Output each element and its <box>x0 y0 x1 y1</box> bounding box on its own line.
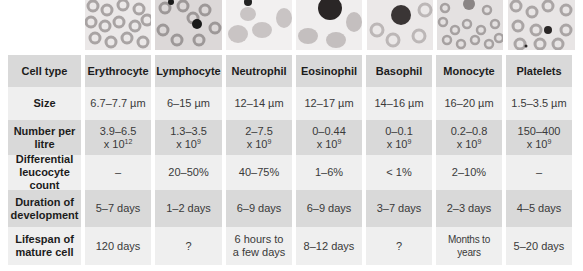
lifespan-neutrophil: 6 hours to a few days <box>226 227 292 265</box>
number-range: 0–0.44 <box>312 125 346 138</box>
number-multiplier: x 109 <box>387 138 412 151</box>
platelets-micrograph <box>508 0 575 50</box>
duration-platelets: 4–5 days <box>506 190 572 227</box>
number-lymphocyte: 1.3–3.5x 109 <box>155 120 222 155</box>
duration-basophil: 3–7 days <box>366 190 432 227</box>
number-range: 2–7.5 <box>245 125 273 138</box>
size-eosinophil: 12–17 µm <box>296 87 362 120</box>
number-multiplier: x 1012 <box>104 138 133 151</box>
monocyte-micrograph <box>437 0 503 50</box>
number-multiplier: x 109 <box>247 138 272 151</box>
duration-erythrocyte: 5–7 days <box>85 190 151 227</box>
number-range: 1.3–3.5 <box>170 125 207 138</box>
number-multiplier: x 109 <box>457 138 482 151</box>
duration-eosinophil: 6–9 days <box>296 190 362 227</box>
number-erythrocyte: 3.9–6.5x 1012 <box>85 120 151 155</box>
differential-neutrophil: 40–75% <box>226 155 292 190</box>
neutrophil-micrograph <box>226 0 292 50</box>
number-neutrophil: 2–7.5x 109 <box>226 120 292 155</box>
blood-cell-table: Cell type Erythrocyte Lymphocyte Neutrop… <box>8 55 572 265</box>
lifespan-monocyte: Months to years <box>436 227 502 265</box>
size-erythrocyte: 6.7–7.7 µm <box>85 87 151 120</box>
eosinophil-micrograph <box>296 0 362 50</box>
col-header-eosinophil: Eosinophil <box>296 55 362 87</box>
row-label-differential: Differential leucocyte count <box>8 155 81 190</box>
differential-erythrocyte: – <box>85 155 151 190</box>
number-multiplier: x 109 <box>317 138 342 151</box>
col-header-lymphocyte: Lymphocyte <box>155 55 222 87</box>
number-platelets: 150–400x 109 <box>506 120 572 155</box>
lymphocyte-micrograph <box>155 0 222 50</box>
lifespan-lymphocyte: ? <box>155 227 222 265</box>
row-label-size: Size <box>8 87 81 120</box>
number-range: 0.2–0.8 <box>451 125 488 138</box>
differential-eosinophil: 1–6% <box>296 155 362 190</box>
row-label-lifespan: Lifespan of mature cell <box>8 227 81 265</box>
basophil-micrograph <box>367 0 433 50</box>
col-header-erythrocyte: Erythrocyte <box>85 55 151 87</box>
number-range: 0–0.1 <box>385 125 413 138</box>
row-label-cell-type: Cell type <box>8 55 81 87</box>
number-monocyte: 0.2–0.8x 109 <box>436 120 502 155</box>
number-multiplier: x 109 <box>176 138 201 151</box>
size-platelets: 1.5–3.5 µm <box>506 87 572 120</box>
col-header-basophil: Basophil <box>366 55 432 87</box>
number-basophil: 0–0.1x 109 <box>366 120 432 155</box>
differential-lymphocyte: 20–50% <box>155 155 222 190</box>
size-lymphocyte: 6–15 µm <box>155 87 222 120</box>
micrograph-strip <box>0 0 583 50</box>
duration-lymphocyte: 1–2 days <box>155 190 222 227</box>
size-basophil: 14–16 µm <box>366 87 432 120</box>
lifespan-eosinophil: 8–12 days <box>296 227 362 265</box>
lifespan-platelets: 5–20 days <box>506 227 572 265</box>
col-header-monocyte: Monocyte <box>436 55 502 87</box>
differential-monocyte: 2–10% <box>436 155 502 190</box>
lifespan-basophil: ? <box>366 227 432 265</box>
duration-monocyte: 2–3 days <box>436 190 502 227</box>
row-label-duration: Duration of development <box>8 190 81 227</box>
number-range: 3.9–6.5 <box>100 125 137 138</box>
number-eosinophil: 0–0.44x 109 <box>296 120 362 155</box>
number-range: 150–400 <box>518 125 561 138</box>
lifespan-erythrocyte: 120 days <box>85 227 151 265</box>
differential-platelets: – <box>506 155 572 190</box>
col-header-platelets: Platelets <box>506 55 572 87</box>
size-monocyte: 16–20 µm <box>436 87 502 120</box>
duration-neutrophil: 6–9 days <box>226 190 292 227</box>
col-header-neutrophil: Neutrophil <box>226 55 292 87</box>
size-neutrophil: 12–14 µm <box>226 87 292 120</box>
row-label-number: Number per litre <box>8 120 81 155</box>
differential-basophil: < 1% <box>366 155 432 190</box>
number-multiplier: x 109 <box>527 138 552 151</box>
erythrocyte-micrograph <box>85 0 151 50</box>
